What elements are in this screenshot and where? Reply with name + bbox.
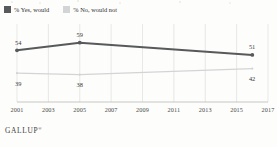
data-point-label: 59 bbox=[77, 31, 83, 38]
chart-legend: % Yes, would % No, would not bbox=[4, 6, 117, 13]
x-tick-label: 2001 bbox=[11, 106, 24, 113]
scan-artifact bbox=[0, 0, 277, 5]
legend-swatch-yes-icon bbox=[4, 6, 11, 13]
gallup-attribution: GALLUP® bbox=[5, 126, 42, 135]
gallup-wordmark: GALLUP bbox=[5, 126, 38, 135]
x-axis-tick-labels: 200120032005200720092011201320152017 bbox=[0, 106, 277, 120]
registered-mark-icon: ® bbox=[38, 126, 41, 131]
x-tick-label: 2013 bbox=[199, 106, 212, 113]
legend-swatch-no-icon bbox=[63, 6, 70, 13]
data-point-label: 42 bbox=[249, 75, 255, 82]
legend-label-no: % No, would not bbox=[73, 6, 117, 13]
legend-item-no[interactable]: % No, would not bbox=[63, 6, 117, 13]
x-tick-label: 2007 bbox=[105, 106, 118, 113]
chart-page: % Yes, would % No, would not 54595139384… bbox=[0, 0, 277, 147]
data-point-label: 38 bbox=[77, 81, 83, 88]
legend-item-yes[interactable]: % Yes, would bbox=[4, 6, 49, 13]
data-point-label: 51 bbox=[249, 43, 255, 50]
x-tick-label: 2009 bbox=[136, 106, 149, 113]
plot-area: 545951393842 bbox=[0, 22, 277, 106]
x-tick-label: 2011 bbox=[168, 106, 181, 113]
x-tick-label: 2003 bbox=[42, 106, 55, 113]
x-tick-label: 2015 bbox=[230, 106, 243, 113]
data-point-label: 39 bbox=[15, 80, 21, 87]
line-chart: 545951393842 bbox=[0, 22, 277, 110]
x-tick-label: 2017 bbox=[262, 106, 275, 113]
data-point-label: 54 bbox=[15, 39, 22, 46]
legend-label-yes: % Yes, would bbox=[14, 6, 49, 13]
x-tick-label: 2005 bbox=[73, 106, 86, 113]
